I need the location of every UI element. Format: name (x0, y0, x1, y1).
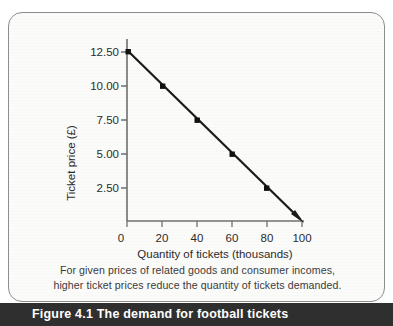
figure-container: Ticket price (£) 12.50 10.00 7.50 5.00 2… (0, 0, 393, 326)
y-tick-label-7-50: 7.50 (97, 114, 119, 126)
figure-panel: Ticket price (£) 12.50 10.00 7.50 5.00 2… (8, 12, 385, 302)
data-point-60-5-00 (230, 152, 235, 157)
figure-caption: For given prices of related goods and co… (9, 263, 385, 294)
y-tick-label-12-50: 12.50 (90, 46, 119, 58)
figure-title-bar: Figure 4.1 The demand for football ticke… (0, 303, 393, 326)
figure-title-label: Figure 4.1 The demand for football ticke… (32, 307, 288, 321)
data-point-80-2-50 (264, 186, 269, 191)
demand-curve-chart: Ticket price (£) 12.50 10.00 7.50 5.00 2… (9, 13, 385, 261)
data-point-0-12-50 (126, 49, 131, 54)
data-point-20-10-00 (160, 84, 165, 89)
demand-line (129, 52, 300, 219)
x-tick-label-60: 60 (226, 232, 239, 244)
x-tick-label-20: 20 (156, 232, 169, 244)
x-tick-label-0: 0 (118, 232, 124, 244)
y-axis-title: Ticket price (£) (65, 125, 77, 201)
caption-line-1: For given prices of related goods and co… (9, 263, 385, 278)
x-tick-label-100: 100 (292, 232, 311, 244)
caption-line-2: higher ticket prices reduce the quantity… (9, 278, 385, 293)
y-tick-label-2-50: 2.50 (97, 182, 119, 194)
x-axis-title: Quantity of tickets (thousands) (137, 248, 292, 260)
x-tick-label-80: 80 (261, 232, 274, 244)
x-tick-label-40: 40 (191, 232, 204, 244)
y-tick-label-5-00: 5.00 (97, 148, 119, 160)
data-point-40-7-50 (195, 118, 200, 123)
y-tick-label-10-00: 10.00 (90, 80, 119, 92)
chart-plot-area: Ticket price (£) 12.50 10.00 7.50 5.00 2… (9, 13, 385, 261)
